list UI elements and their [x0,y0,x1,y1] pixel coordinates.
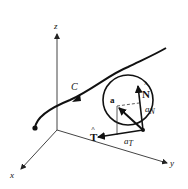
diagram-canvas: z x y C ^ N a aN ^ T aT [0,0,188,189]
x-axis [21,130,57,169]
normal-component-sub: N [149,107,156,116]
point-p [141,128,145,132]
normal-component-label: aN [145,104,156,116]
unit-tangent-label: T [90,131,98,143]
z-axis-label: z [53,21,58,31]
y-axis-label: y [169,158,174,168]
component-projections [117,103,139,135]
unit-normal-hat: ^ [144,80,148,88]
acceleration-label: a [110,95,115,105]
x-axis-label: x [9,170,14,180]
acceleration-vector [119,108,143,130]
curve-label: C [71,81,78,92]
curve-start-dot [32,125,37,130]
labels: z x y C ^ N a aN ^ T aT [9,21,174,180]
tangential-component-sub: T [129,139,134,148]
axes [21,34,167,169]
unit-tangent-vector [98,130,143,137]
projection-to-normal [117,103,139,106]
tnb-acceleration-diagram: z x y C ^ N a aN ^ T aT [0,0,188,189]
unit-normal-label: N [142,88,150,100]
tangential-component-label: aT [124,136,134,148]
